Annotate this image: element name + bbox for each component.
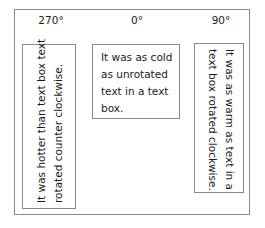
text-line: text box rotated clockwise. bbox=[204, 49, 221, 191]
text-line: box. bbox=[101, 100, 179, 117]
text-box-0-content: It was as cold as unrotated text in a te… bbox=[101, 49, 179, 117]
text-box-270: It was hotter than text box text rotated… bbox=[22, 44, 76, 209]
text-box-90-content: It was as warm as text in a text box rot… bbox=[204, 49, 238, 191]
text-box-270-content: It was hotter than text box text rotated… bbox=[33, 39, 67, 203]
text-box-0: It was as cold as unrotated text in a te… bbox=[92, 44, 180, 119]
text-line: as unrotated bbox=[101, 66, 179, 83]
label-270: 270° bbox=[31, 14, 71, 26]
text-box-90: It was as warm as text in a text box rot… bbox=[194, 43, 244, 193]
label-0: 0° bbox=[117, 14, 157, 26]
text-line: text in a text bbox=[101, 83, 179, 100]
text-line: It was as warm as text in a bbox=[221, 49, 238, 191]
text-line: It was hotter than text box text bbox=[33, 39, 50, 203]
label-90: 90° bbox=[201, 14, 241, 26]
text-line: It was as cold bbox=[101, 49, 179, 66]
text-line: rotated counter clockwise. bbox=[50, 39, 67, 203]
